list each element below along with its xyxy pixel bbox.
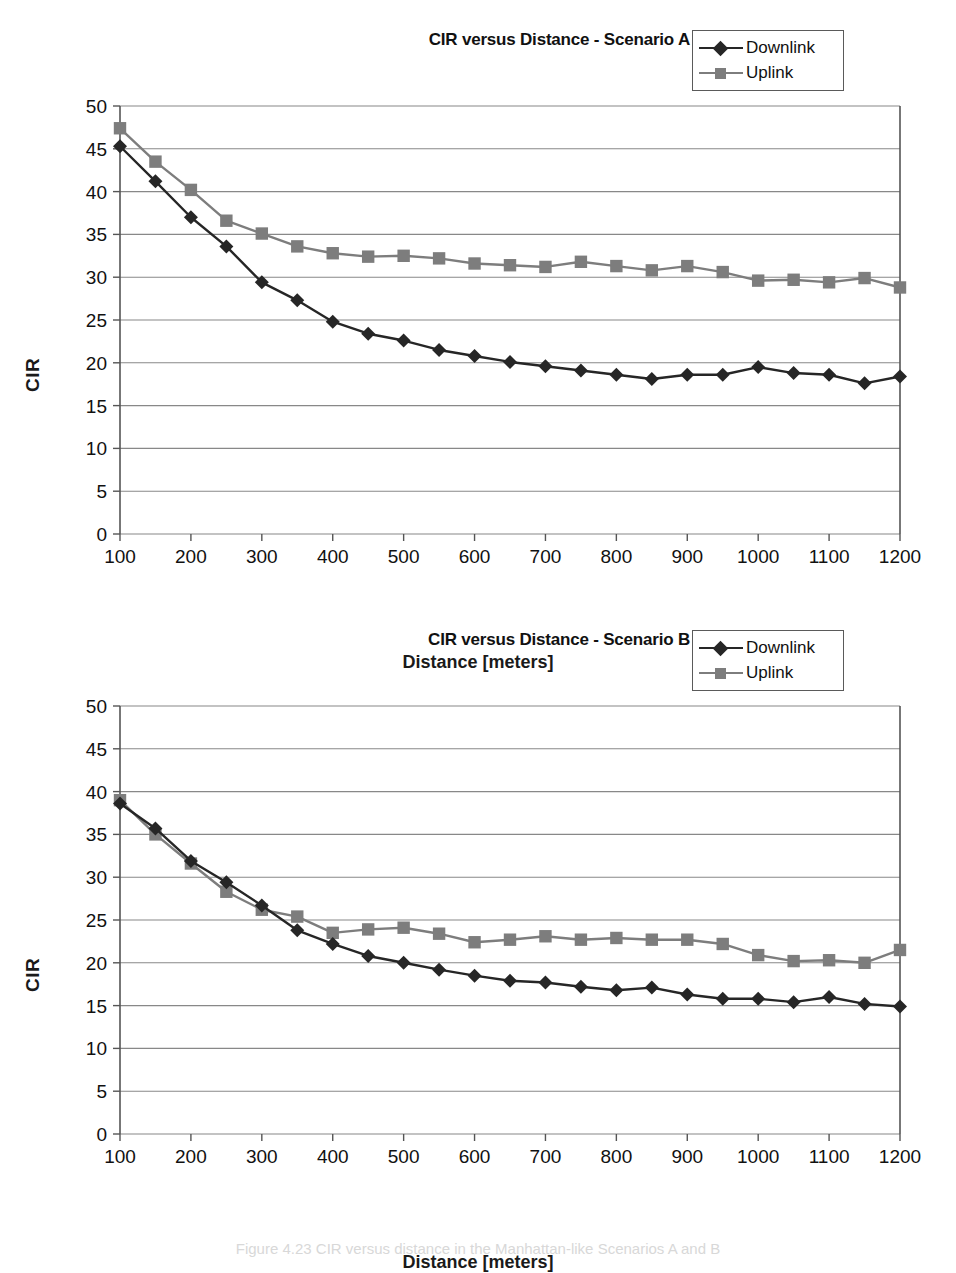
data-point-diamond [680,987,694,1001]
x-tick-label: 1000 [737,546,779,567]
data-point-square [646,933,658,945]
x-tick-label: 300 [246,1146,278,1167]
x-tick-label: 900 [671,1146,703,1167]
data-point-square [858,272,870,284]
data-point-square [823,954,835,966]
data-point-square [291,240,303,252]
data-point-square [397,250,409,262]
x-tick-label: 800 [601,546,633,567]
data-point-diamond [503,974,517,988]
data-point-square [575,256,587,268]
data-point-diamond [468,349,482,363]
chart-b-plot-area: 0510152025303540455010020030040050060070… [0,692,956,1162]
data-point-diamond [609,983,623,997]
x-tick-label: 500 [388,1146,420,1167]
data-point-square [220,215,232,227]
data-point-square [681,933,693,945]
square-marker-icon [715,668,726,679]
data-point-diamond [680,368,694,382]
data-point-diamond [361,949,375,963]
y-tick-label: 5 [96,1081,107,1102]
data-point-diamond [290,293,304,307]
data-point-diamond [326,315,340,329]
data-point-square [575,933,587,945]
chart-b-header: CIR versus Distance - Scenario B Downlin… [0,600,956,692]
series-downlink [113,797,907,1014]
y-tick-label: 35 [86,824,107,845]
x-tick-label: 400 [317,1146,349,1167]
data-point-diamond [716,992,730,1006]
diamond-marker-icon [713,640,729,656]
y-tick-label: 40 [86,182,107,203]
data-point-diamond [787,995,801,1009]
chart-b-title: CIR versus Distance - Scenario B [0,630,690,650]
data-point-square [717,938,729,950]
data-point-square [362,250,374,262]
y-tick-label: 35 [86,224,107,245]
data-point-diamond [326,937,340,951]
data-point-diamond [361,327,375,341]
legend-label-uplink: Uplink [743,663,793,683]
y-tick-label: 40 [86,782,107,803]
data-point-square [717,266,729,278]
y-tick-label: 45 [86,139,107,160]
legend-item-uplink[interactable]: Uplink [699,660,837,685]
data-point-square [610,932,622,944]
y-tick-label: 25 [86,910,107,931]
x-tick-label: 300 [246,546,278,567]
legend-item-downlink[interactable]: Downlink [699,35,837,60]
y-tick-label: 10 [86,1038,107,1059]
data-point-square [681,260,693,272]
y-tick-label: 0 [96,524,107,545]
chart-b-y-axis-label: CIR [22,958,44,992]
chart-a-plot-area: 0510152025303540455010020030040050060070… [0,92,956,562]
data-point-diamond [787,366,801,380]
data-point-diamond [432,963,446,977]
data-point-square [256,227,268,239]
data-point-diamond [538,975,552,989]
x-tick-label: 200 [175,546,207,567]
chart-a-svg: 0510152025303540455010020030040050060070… [0,92,956,582]
data-point-diamond [574,364,588,378]
data-point-square [504,933,516,945]
data-point-square [646,264,658,276]
legend-label-uplink: Uplink [743,63,793,83]
y-tick-label: 20 [86,353,107,374]
data-point-square [894,944,906,956]
data-point-diamond [468,969,482,983]
data-point-diamond [858,997,872,1011]
data-point-square [787,955,799,967]
data-point-diamond [893,370,907,384]
data-point-diamond [822,990,836,1004]
data-point-square [823,276,835,288]
data-point-diamond [645,981,659,995]
data-point-diamond [858,376,872,390]
data-point-diamond [645,372,659,386]
legend-item-downlink[interactable]: Downlink [699,635,837,660]
x-tick-label: 1200 [879,1146,921,1167]
data-point-square [610,260,622,272]
data-point-diamond [503,355,517,369]
x-tick-label: 900 [671,546,703,567]
data-point-square [185,184,197,196]
data-point-diamond [609,368,623,382]
data-point-square [362,923,374,935]
data-point-diamond [538,359,552,373]
square-marker-icon [715,68,726,79]
x-tick-label: 1000 [737,1146,779,1167]
y-tick-label: 20 [86,953,107,974]
y-tick-label: 5 [96,481,107,502]
x-tick-label: 400 [317,546,349,567]
legend-label-downlink: Downlink [743,638,815,658]
y-tick-label: 15 [86,996,107,1017]
data-point-diamond [822,368,836,382]
chart-scenario-a: CIR versus Distance - Scenario A Downlin… [0,0,956,610]
data-point-square [291,910,303,922]
y-tick-label: 25 [86,310,107,331]
y-tick-label: 50 [86,696,107,717]
legend-item-uplink[interactable]: Uplink [699,60,837,85]
data-point-diamond [290,923,304,937]
legend-swatch-uplink [699,65,743,81]
chart-b-legend: Downlink Uplink [692,630,844,691]
chart-a-header: CIR versus Distance - Scenario A Downlin… [0,0,956,92]
